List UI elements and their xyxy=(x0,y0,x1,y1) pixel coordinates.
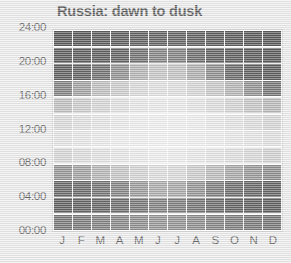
heatmap-cell xyxy=(111,31,129,46)
heatmap-cell xyxy=(187,115,205,130)
heatmap-cell xyxy=(168,115,186,130)
heatmap-cell xyxy=(149,198,167,213)
heatmap-cell xyxy=(168,64,186,79)
heatmap-cell xyxy=(111,115,129,130)
heatmap-cell xyxy=(73,131,91,146)
heatmap-cell xyxy=(111,81,129,96)
heatmap-cell xyxy=(73,31,91,46)
heatmap-cell xyxy=(187,131,205,146)
heatmap-cell xyxy=(54,31,72,46)
y-tick-label: 16:00 xyxy=(19,89,46,101)
heatmap-cell xyxy=(225,115,243,130)
heatmap-cell xyxy=(92,64,110,79)
heatmap-cell xyxy=(73,148,91,163)
heatmap-cell xyxy=(92,148,110,163)
heatmap-cell xyxy=(73,215,91,230)
x-tick-label: M xyxy=(91,234,109,254)
heatmap-cell xyxy=(54,198,72,213)
heatmap-grid xyxy=(53,30,282,231)
x-tick-label: F xyxy=(72,234,90,254)
heatmap-cell xyxy=(263,131,281,146)
heatmap-cell xyxy=(130,98,148,113)
heatmap-cell xyxy=(168,31,186,46)
month-column xyxy=(187,31,205,230)
heatmap-cell xyxy=(168,48,186,63)
heatmap-cell xyxy=(92,115,110,130)
heatmap-cell xyxy=(168,198,186,213)
heatmap-cell xyxy=(54,131,72,146)
heatmap-cell xyxy=(225,98,243,113)
heatmap-cell xyxy=(130,131,148,146)
heatmap-cell xyxy=(111,198,129,213)
heatmap-cell xyxy=(263,181,281,196)
heatmap-cell xyxy=(54,64,72,79)
heatmap-cell xyxy=(225,165,243,180)
month-column xyxy=(244,31,262,230)
month-column xyxy=(54,31,72,230)
heatmap-cell xyxy=(206,64,224,79)
heatmap-cell xyxy=(130,181,148,196)
heatmap-cell xyxy=(54,181,72,196)
heatmap-cell xyxy=(244,165,262,180)
heatmap-cell xyxy=(206,31,224,46)
month-column xyxy=(111,31,129,230)
heatmap-cell xyxy=(187,98,205,113)
heatmap-cell xyxy=(263,115,281,130)
heatmap-cell xyxy=(244,198,262,213)
heatmap-cell xyxy=(73,81,91,96)
heatmap-cell xyxy=(111,148,129,163)
heatmap-cell xyxy=(149,81,167,96)
heatmap-cell xyxy=(54,165,72,180)
heatmap-cell xyxy=(187,64,205,79)
x-tick-label: A xyxy=(187,234,205,254)
x-tick-label: J xyxy=(149,234,167,254)
y-tick-label: 08:00 xyxy=(19,156,46,168)
heatmap-cell xyxy=(263,98,281,113)
plot-area xyxy=(52,29,283,232)
heatmap-cell xyxy=(244,115,262,130)
heatmap-cell xyxy=(73,198,91,213)
heatmap-cell xyxy=(168,165,186,180)
heatmap-cell xyxy=(244,148,262,163)
heatmap-cell xyxy=(130,48,148,63)
x-tick-label: S xyxy=(206,234,224,254)
x-tick-label: O xyxy=(226,234,244,254)
heatmap-cell xyxy=(149,165,167,180)
heatmap-cell xyxy=(187,81,205,96)
heatmap-cell xyxy=(149,215,167,230)
heatmap-cell xyxy=(130,215,148,230)
heatmap-cell xyxy=(263,64,281,79)
heatmap-cell xyxy=(244,48,262,63)
heatmap-cell xyxy=(111,64,129,79)
heatmap-cell xyxy=(168,81,186,96)
heatmap-cell xyxy=(149,98,167,113)
x-tick-label: J xyxy=(53,234,71,254)
x-axis: JFMAMJJASOND xyxy=(52,234,283,254)
heatmap-cell xyxy=(187,198,205,213)
heatmap-cell xyxy=(54,81,72,96)
y-tick-label: 04:00 xyxy=(19,190,46,202)
heatmap-cell xyxy=(168,98,186,113)
heatmap-cell xyxy=(244,131,262,146)
heatmap-cell xyxy=(130,148,148,163)
heatmap-cell xyxy=(206,198,224,213)
heatmap-cell xyxy=(206,48,224,63)
heatmap-cell xyxy=(225,198,243,213)
heatmap-cell xyxy=(54,115,72,130)
heatmap-cell xyxy=(187,215,205,230)
heatmap-cell xyxy=(111,181,129,196)
heatmap-cell xyxy=(225,181,243,196)
month-column xyxy=(130,31,148,230)
heatmap-cell xyxy=(263,31,281,46)
heatmap-cell xyxy=(92,31,110,46)
heatmap-cell xyxy=(92,198,110,213)
x-tick-label: N xyxy=(245,234,263,254)
heatmap-cell xyxy=(54,98,72,113)
heatmap-cell xyxy=(54,148,72,163)
heatmap-cell xyxy=(149,131,167,146)
heatmap-cell xyxy=(130,64,148,79)
heatmap-cell xyxy=(73,115,91,130)
heatmap-cell xyxy=(263,215,281,230)
heatmap-cell xyxy=(206,98,224,113)
heatmap-cell xyxy=(111,165,129,180)
